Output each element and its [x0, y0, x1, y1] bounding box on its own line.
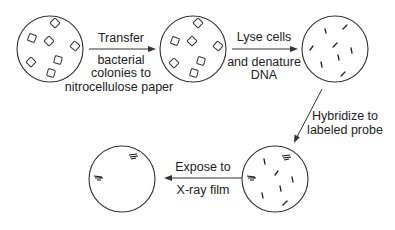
- colony-icon: [197, 57, 206, 66]
- colony-icon: [70, 41, 80, 51]
- petri-dish-circle: [242, 146, 308, 212]
- dna-mark: [283, 201, 287, 205]
- dna-mark: [280, 186, 281, 191]
- step-label: Transfer: [98, 31, 144, 45]
- lyse-arrow: Lyse cells and denature DNA: [227, 30, 301, 82]
- diagram-canvas: Transfer bacterial colonies to nitrocell…: [0, 0, 395, 230]
- colony-icon: [47, 69, 56, 78]
- colony-icon: [193, 18, 203, 28]
- plate-nitrocellulose: [160, 16, 226, 82]
- step-label: Lyse cells: [237, 30, 291, 44]
- dna-mark: [341, 72, 345, 76]
- step-label: nitrocellulose paper: [65, 80, 173, 94]
- dna-mark: [292, 177, 293, 182]
- colony-icon: [26, 57, 36, 67]
- arrow-head-icon: [290, 46, 298, 52]
- step-label: Expose to: [175, 160, 231, 174]
- dna-mark: [343, 25, 347, 29]
- arrow-head-icon: [164, 175, 172, 181]
- dna-mark: [310, 46, 313, 50]
- arrow-head-icon: [294, 135, 300, 144]
- dna-mark: [338, 55, 339, 60]
- colony-icon: [170, 36, 179, 45]
- dna-mark: [333, 43, 337, 47]
- step-label: colonies to: [91, 66, 151, 80]
- step-label: and denature: [227, 55, 301, 69]
- step-label: DNA: [251, 68, 278, 82]
- step-label: bacterial: [97, 53, 144, 67]
- hybridized-spot-icon: [129, 154, 138, 159]
- hybridize-arrow: Hybridize to labeled probe: [294, 89, 383, 143]
- dna-mark: [275, 171, 278, 175]
- dna-mark: [321, 62, 322, 67]
- transfer-arrow: Transfer bacterial colonies to nitrocell…: [65, 31, 173, 94]
- plate-denatured: [302, 16, 368, 82]
- hybridized-spot-icon: [94, 176, 103, 180]
- colony-icon: [27, 33, 36, 42]
- plate-film: [89, 146, 155, 212]
- colony-icon: [169, 58, 179, 68]
- colony-icon: [50, 18, 60, 28]
- hybridized-spot-icon: [247, 176, 256, 180]
- plate-hybridized: [242, 146, 308, 212]
- plate-colonies: [17, 16, 83, 82]
- petri-dish-circle: [89, 146, 155, 212]
- dna-mark: [262, 193, 263, 198]
- arrow-head-icon: [148, 46, 156, 52]
- colony-icon: [187, 36, 197, 46]
- dna-mark: [325, 29, 326, 33]
- hybridized-spot-icon: [282, 155, 291, 160]
- petri-dish-circle: [302, 16, 368, 82]
- colony-icon: [213, 41, 223, 51]
- colony-icon: [44, 36, 54, 46]
- step-label: Hybridize to: [312, 109, 378, 123]
- step-label: X-ray film: [177, 183, 230, 197]
- colony-icon: [190, 69, 199, 78]
- dna-mark: [264, 159, 265, 164]
- expose-arrow: Expose to X-ray film: [164, 160, 242, 197]
- colony-icon: [54, 56, 63, 65]
- dna-mark: [351, 48, 352, 53]
- step-label: labeled probe: [307, 123, 383, 137]
